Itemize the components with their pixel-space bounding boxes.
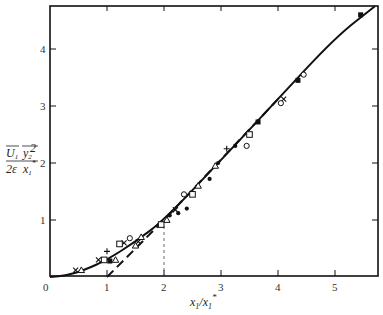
x-tick-label: 4 [275,281,281,293]
filled-square-marker [256,119,261,124]
svg-text:2ε: 2ε [6,162,17,176]
filled-circle-marker [185,207,189,211]
chart: 0123451234 x1/x1* U1 y2 2 2ε x1* [0,0,383,315]
x-tick-label: 5 [332,281,338,293]
open-square-marker [117,241,123,247]
open-circle-marker [181,192,186,197]
open-square-marker [247,132,253,138]
theory-solid-curve [50,6,375,277]
y-tick-label: 3 [40,100,46,112]
x-tick-label: 1 [104,281,110,293]
curves [50,6,375,277]
axis-tick-labels: 0123451234 [40,43,338,293]
filled-square-marker [358,12,363,17]
data-points [73,12,363,272]
svg-text:U1: U1 [6,146,18,161]
svg-text:x1*: x1* [22,159,36,177]
filled-circle-marker [216,161,220,165]
open-square-marker [158,222,164,228]
filled-circle-marker [208,177,212,181]
open-circle-marker [127,236,132,241]
x-axis-label: x1/x1* [189,292,217,311]
svg-text:2: 2 [30,141,36,155]
svg-text:x1/x1*: x1/x1* [189,292,217,311]
open-circle-marker [278,101,283,106]
x-tick-label: 2 [161,281,167,293]
open-square-marker [190,192,196,198]
filled-square-marker [107,259,112,264]
filled-circle-marker [176,211,180,215]
cross-marker [96,257,101,262]
filled-circle-marker [168,213,172,217]
filled-circle-marker [233,144,237,148]
y-tick-label: 4 [40,43,46,55]
x-tick-label: 3 [218,281,224,293]
open-square-marker [101,257,107,263]
open-triangle-marker [112,257,118,263]
x-tick-label: 0 [43,281,49,293]
y-tick-label: 2 [40,157,46,169]
y-axis-label: U1 y2 2 2ε x1* [6,141,38,177]
y-tick-label: 1 [40,214,46,226]
open-circle-marker [244,143,249,148]
filled-square-marker [295,78,300,83]
open-circle-marker [301,72,306,77]
plus-marker [104,248,110,254]
